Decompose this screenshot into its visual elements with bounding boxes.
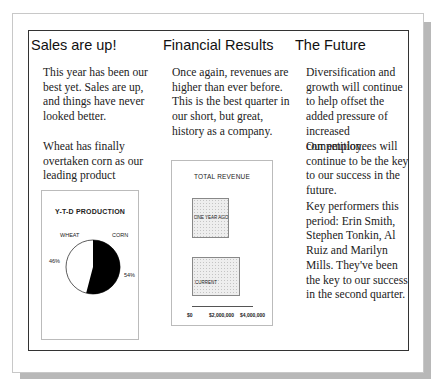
bar-current: CURRENT: [192, 257, 240, 296]
tick-4m: $4,000,000: [240, 312, 265, 318]
future-paragraph-3: Key performers this period: Erin Smith, …: [306, 200, 410, 303]
bar-one-year-ago: ONE YEAR AGO: [192, 198, 229, 238]
pie-chart: [65, 239, 121, 295]
heading-sales: Sales are up!: [31, 37, 116, 53]
sales-paragraph-1: This year has been our best yet. Sales a…: [43, 66, 157, 125]
pie-label-wheat: WHEAT: [60, 232, 79, 238]
bar-label-current: CURRENT: [195, 280, 217, 285]
future-paragraph-2: Our employees will continue to be the ke…: [306, 140, 410, 199]
sales-paragraph-2: Wheat has finally overtaken corn as our …: [43, 140, 157, 184]
bar-chart-box: TOTAL REVENUE ONE YEAR AGO CURRENT $0 $2…: [171, 160, 273, 326]
bar-label-one-year-ago: ONE YEAR AGO: [194, 215, 228, 220]
heading-future: The Future: [295, 37, 366, 53]
financial-paragraph-1: Once again, revenues are higher than eve…: [172, 66, 290, 140]
pie-chart-box: Y-T-D PRODUCTION WHEAT CORN 46% 54%: [41, 190, 139, 340]
heading-financial: Financial Results: [163, 37, 273, 53]
pie-chart-title: Y-T-D PRODUCTION: [42, 208, 138, 215]
bar-chart-title: TOTAL REVENUE: [172, 173, 272, 180]
tick-2m: $2,000,000: [209, 312, 234, 318]
pie-label-wheat-pct: 46%: [49, 258, 60, 264]
tick-0: $0: [187, 312, 193, 318]
pie-label-corn-pct: 54%: [124, 272, 135, 278]
x-axis: [192, 306, 253, 307]
pie-label-corn: CORN: [112, 232, 128, 238]
